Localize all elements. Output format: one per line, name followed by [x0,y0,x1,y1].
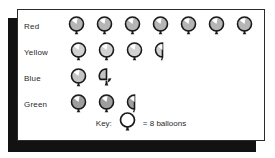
row-icons-red [68,16,264,38]
balloon-cell [70,42,98,64]
table-row: Red [18,14,264,40]
table-row: Yellow [18,40,264,66]
half-balloon-icon [98,68,115,90]
balloon-cell [68,16,96,38]
pictograph-chart-frame: Red Yellow [17,9,265,141]
balloon-icon [126,42,143,64]
chart-key: Key: = 8 balloons [18,112,264,134]
balloon-cell [180,16,208,38]
balloon-cell [236,16,264,38]
balloon-icon [124,16,141,38]
row-icons-blue [70,68,264,90]
balloon-cell [126,42,154,64]
balloon-icon [180,16,197,38]
balloon-icon [208,16,225,38]
row-label-yellow: Yellow [18,49,70,57]
row-icons-yellow [70,42,264,64]
key-label: Key: [96,119,112,128]
balloon-icon [68,16,85,38]
balloon-cell-partial [98,68,126,90]
table-row: Blue [18,66,264,92]
row-label-green: Green [18,101,70,109]
balloon-cell [70,68,98,90]
balloon-cell [124,16,152,38]
row-label-blue: Blue [18,75,70,83]
pictograph-screenshot: Red Yellow [0,0,275,158]
balloon-icon [96,16,113,38]
key-equals-text: = 8 balloons [143,119,186,128]
balloon-cell [96,16,124,38]
row-label-red: Red [18,23,68,31]
pictograph-rows: Red Yellow [18,10,264,118]
balloon-cell-partial [154,42,182,64]
balloon-cell [98,42,126,64]
balloon-icon [152,16,169,38]
balloon-icon [70,42,87,64]
balloon-icon [236,16,253,38]
balloon-icon [119,112,136,134]
balloon-icon [98,42,115,64]
half-balloon-icon [154,42,171,64]
balloon-cell [208,16,236,38]
balloon-cell [152,16,180,38]
balloon-icon [70,68,87,90]
